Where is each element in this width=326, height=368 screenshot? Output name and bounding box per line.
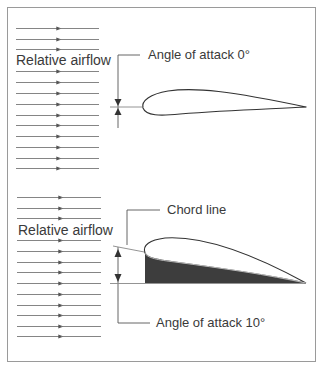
top-airfoil bbox=[143, 90, 306, 116]
bottom-flow-lines bbox=[17, 198, 101, 337]
bottom-angle-arrow-down-icon bbox=[115, 274, 122, 282]
top-flow-lines bbox=[16, 29, 99, 169]
bottom-angle-arrow-up-icon bbox=[115, 249, 122, 257]
chord-line-label: Chord line bbox=[167, 203, 226, 216]
top-relative-airflow-label: Relative airflow bbox=[15, 53, 112, 67]
top-angle-leader bbox=[118, 55, 140, 128]
bottom-angle-of-attack-label: Angle of attack 10° bbox=[156, 316, 265, 329]
top-angle-arrow-down-icon bbox=[115, 99, 122, 106]
bottom-relative-airflow-label: Relative airflow bbox=[17, 223, 114, 237]
top-angle-of-attack-label: Angle of attack 0° bbox=[148, 48, 250, 61]
top-angle-arrow-up-icon bbox=[115, 108, 122, 115]
